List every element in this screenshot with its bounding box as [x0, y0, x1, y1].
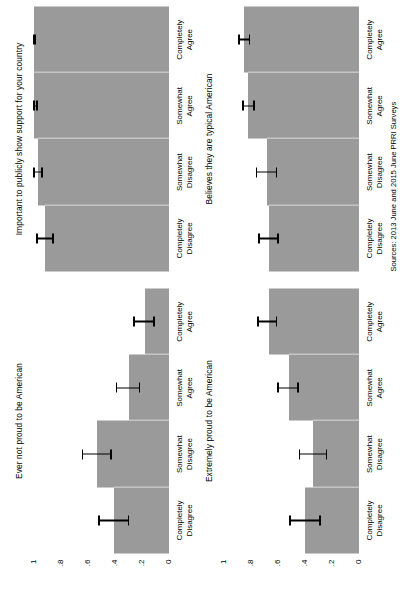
error-bar	[34, 139, 169, 205]
error-bar-cap-lower	[297, 382, 299, 392]
panel-ever-not-proud: Ever not proud to be AmericanCompletelyD…	[34, 288, 215, 553]
figure-canvas: Extremely proud to be AmericanCompletely…	[0, 0, 408, 591]
category-label-line1: Completely	[175, 288, 185, 354]
error-bar-line	[278, 387, 298, 389]
panel-title: Important to publicly show support for y…	[14, 6, 24, 271]
category-label: SomewhatAgree	[365, 72, 384, 138]
category-label: SomewhatDisagree	[175, 139, 194, 205]
error-bar-cap-upper	[133, 316, 135, 326]
category-label-line2: Agree	[185, 72, 195, 138]
error-bar	[34, 421, 169, 487]
category-label-line2: Agree	[375, 72, 385, 138]
error-bar-cap-upper	[242, 100, 244, 110]
y-tick-label: .2	[327, 559, 336, 575]
error-bar-cap-upper	[277, 382, 279, 392]
error-bar-line	[99, 519, 129, 521]
error-bar	[34, 354, 169, 420]
error-bar-line	[290, 519, 320, 521]
panel-extremely-proud: Extremely proud to be AmericanCompletely…	[224, 288, 405, 553]
category-label: SomewhatDisagree	[365, 421, 384, 487]
plot-area	[34, 288, 169, 553]
error-bar-cap-lower	[36, 100, 38, 110]
error-bar	[34, 487, 169, 553]
category-label-line2: Disagree	[185, 139, 195, 205]
error-bar-cap-lower	[128, 515, 130, 525]
error-bar-cap-lower	[153, 316, 155, 326]
error-bar-cap-upper	[33, 167, 35, 177]
category-label-line2: Disagree	[375, 139, 385, 205]
y-tick-label: .2	[137, 559, 146, 575]
plot-area	[34, 6, 169, 271]
y-tick-label: .4	[300, 559, 309, 575]
error-bar-line	[83, 453, 111, 455]
panel-show-support: Important to publicly show support for y…	[34, 6, 215, 271]
category-label: SomewhatAgree	[175, 72, 194, 138]
category-label-line1: Somewhat	[365, 139, 375, 205]
category-label: CompletelyDisagree	[175, 487, 194, 553]
category-label-line1: Somewhat	[365, 354, 375, 420]
category-label: CompletelyDisagree	[175, 205, 194, 271]
category-label-line2: Agree	[375, 354, 385, 420]
error-bar	[224, 421, 359, 487]
category-label-line2: Disagree	[375, 205, 385, 271]
error-bar	[224, 487, 359, 553]
error-bar-line	[116, 387, 139, 389]
y-tick-label: .8	[56, 559, 65, 575]
category-label-line2: Agree	[375, 288, 385, 354]
category-label: CompletelyDisagree	[365, 205, 384, 271]
panel-believes-typical: Believes they are typical AmericanComple…	[224, 6, 405, 271]
error-bar-cap-lower	[249, 34, 251, 44]
y-tick-label: 1	[219, 559, 228, 575]
category-label-line1: Completely	[365, 205, 375, 271]
plot-area	[224, 288, 359, 553]
error-bar-cap-upper	[116, 382, 118, 392]
y-tick-label: .4	[110, 559, 119, 575]
category-label-line1: Somewhat	[365, 421, 375, 487]
figure-body: Extremely proud to be AmericanCompletely…	[0, 0, 408, 591]
y-tick-label: 0	[164, 559, 173, 575]
error-bar-cap-lower	[277, 233, 279, 243]
error-bar	[224, 139, 359, 205]
error-bar	[34, 205, 169, 271]
error-bar-line	[256, 171, 276, 173]
error-bar-cap-upper	[289, 515, 291, 525]
category-label: CompletelyAgree	[365, 288, 384, 354]
y-tick-label: .6	[273, 559, 282, 575]
error-bar-cap-upper	[36, 233, 38, 243]
category-label-line2: Disagree	[185, 421, 195, 487]
error-bar-cap-lower	[52, 233, 54, 243]
error-bar-cap-upper	[238, 34, 240, 44]
category-label-line1: Somewhat	[365, 72, 375, 138]
category-label-line1: Completely	[365, 288, 375, 354]
error-bar	[224, 354, 359, 420]
error-bar	[34, 72, 169, 138]
error-bar-cap-lower	[41, 167, 43, 177]
error-bar-cap-upper	[257, 316, 259, 326]
category-label-line1: Completely	[175, 6, 185, 72]
category-label-line2: Disagree	[185, 205, 195, 271]
category-label-line1: Somewhat	[175, 354, 185, 420]
category-label-line1: Somewhat	[175, 421, 185, 487]
error-bar	[224, 6, 359, 72]
category-label: SomewhatDisagree	[365, 139, 384, 205]
category-label-line1: Somewhat	[175, 139, 185, 205]
category-label: CompletelyAgree	[175, 6, 194, 72]
category-label-line2: Disagree	[185, 487, 195, 553]
error-bar-cap-upper	[256, 167, 258, 177]
error-bar-cap-lower	[319, 515, 321, 525]
category-label-line1: Completely	[175, 487, 185, 553]
error-bar-line	[300, 453, 327, 455]
error-bar-cap-lower	[139, 382, 141, 392]
category-label-line2: Agree	[375, 6, 385, 72]
error-bar	[224, 288, 359, 354]
rotated-figure-wrapper: Extremely proud to be AmericanCompletely…	[0, 0, 408, 591]
error-bar-cap-lower	[276, 167, 278, 177]
error-bar-cap-upper	[98, 515, 100, 525]
category-label-line1: Completely	[365, 487, 375, 553]
error-bar-cap-upper	[33, 100, 35, 110]
error-bar-cap-upper	[299, 449, 301, 459]
category-label-line2: Agree	[185, 354, 195, 420]
category-label-line2: Disagree	[375, 421, 385, 487]
category-label: CompletelyDisagree	[365, 487, 384, 553]
category-label-line1: Completely	[365, 6, 375, 72]
